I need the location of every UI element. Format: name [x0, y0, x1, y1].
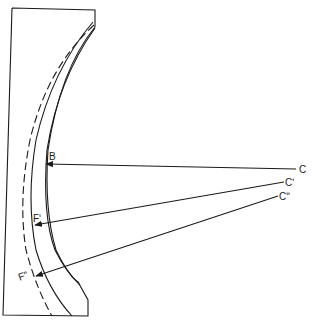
- label-f-prime: Fʹ: [33, 213, 41, 224]
- label-c: C: [299, 164, 306, 175]
- label-c-prime: Cʹ: [285, 177, 294, 188]
- label-c-double-prime: Cʺ: [279, 191, 290, 202]
- label-f-double-prime: Fʺ: [17, 269, 30, 283]
- label-b: B: [49, 151, 56, 162]
- focal-surface-dashed-curve: [23, 25, 94, 316]
- ray-c1-to-f1: [35, 182, 284, 225]
- diagram-canvas: B C Cʹ Cʺ Fʹ Fʺ: [0, 0, 314, 327]
- mirror-block-outline: [3, 8, 95, 316]
- mirror-ray-diagram: B C Cʹ Cʺ Fʹ Fʺ: [0, 0, 314, 327]
- inner-surface-curve: [31, 22, 93, 316]
- ray-c2-to-f2: [36, 196, 278, 276]
- ray-c-to-b: [46, 164, 296, 169]
